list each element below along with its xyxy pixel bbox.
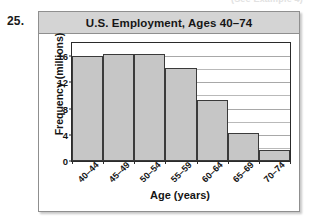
y-tick-label: 16 — [57, 51, 68, 62]
bar — [103, 54, 134, 161]
bar — [228, 133, 259, 161]
bar — [72, 56, 103, 161]
x-tick-label: 50–54 — [138, 160, 163, 185]
bar — [165, 68, 196, 161]
x-tick-label: 40–44 — [76, 160, 101, 185]
chart-title-bar: U.S. Employment, Ages 40–74 — [39, 12, 299, 34]
x-axis-label: Age (years) — [71, 189, 289, 201]
x-tick-label: 45–49 — [107, 160, 132, 185]
x-tick-mark — [259, 161, 260, 164]
x-tick-mark — [72, 161, 73, 164]
x-tick-label: 65–69 — [231, 160, 256, 185]
bar — [134, 54, 165, 162]
cut-off-page-text: (See Example 4) — [231, 0, 303, 4]
x-tick-mark — [197, 161, 198, 164]
x-tick-label: 70–74 — [262, 160, 287, 185]
x-tick-mark — [134, 161, 135, 164]
bars-layer — [72, 43, 290, 161]
exercise-number: 25. — [7, 14, 24, 28]
y-tick-label: 12 — [57, 77, 68, 88]
plot-area: 0481216 40–4445–4950–5455–5960–6465–6970… — [71, 42, 291, 162]
x-tick-mark — [165, 161, 166, 164]
y-tick-label: 8 — [63, 103, 68, 114]
chart-figure-card: U.S. Employment, Ages 40–74 Frequency (m… — [38, 11, 300, 212]
bar — [197, 100, 228, 161]
y-tick-label: 4 — [63, 129, 68, 140]
x-tick-mark — [103, 161, 104, 164]
x-tick-label: 55–59 — [169, 160, 194, 185]
y-tick-label: 0 — [63, 156, 68, 167]
bar — [259, 150, 290, 161]
x-tick-mark — [228, 161, 229, 164]
chart-title: U.S. Employment, Ages 40–74 — [86, 17, 253, 29]
page-top-bleed: (See Example 4) — [0, 0, 309, 10]
x-tick-mark — [290, 161, 291, 164]
x-tick-label: 60–64 — [200, 160, 225, 185]
